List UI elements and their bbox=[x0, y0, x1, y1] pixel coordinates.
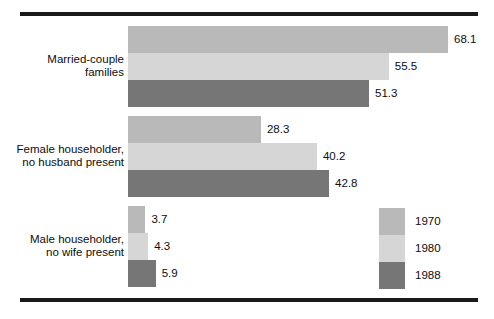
bar-1988-group-1 bbox=[128, 80, 369, 107]
bar-value-label: 4.3 bbox=[154, 233, 170, 260]
legend-swatch-1980 bbox=[379, 235, 405, 262]
category-label-text: Male householder, no wife present bbox=[14, 233, 124, 260]
category-label-2: Female householder, no husband present bbox=[14, 143, 124, 170]
bar-value-label: 51.3 bbox=[375, 80, 397, 107]
bar-value-label: 40.2 bbox=[323, 143, 345, 170]
bar-1980-group-1 bbox=[128, 53, 389, 80]
category-label-1: Married-couple families bbox=[14, 53, 124, 80]
legend-label-text: 1988 bbox=[415, 262, 441, 289]
legend-swatch-1970 bbox=[379, 208, 405, 235]
bar-1970-group-1 bbox=[128, 26, 448, 53]
bar-1988-group-2 bbox=[128, 170, 329, 197]
bar-value-label: 55.5 bbox=[395, 53, 417, 80]
category-label-3: Male householder, no wife present bbox=[14, 233, 124, 260]
bar-value-label: 68.1 bbox=[454, 26, 476, 53]
bar-value-label: 28.3 bbox=[267, 116, 289, 143]
legend-label-text: 1980 bbox=[415, 235, 441, 262]
bar-1980-group-2 bbox=[128, 143, 317, 170]
chart-container: Married-couple families68.155.551.3Femal… bbox=[0, 0, 494, 319]
bar-value-label: 42.8 bbox=[335, 170, 357, 197]
category-label-text: Female householder, no husband present bbox=[14, 143, 124, 170]
legend-swatch-1988 bbox=[379, 262, 405, 289]
bar-value-label: 3.7 bbox=[151, 206, 167, 233]
category-label-text: Married-couple families bbox=[14, 53, 124, 80]
legend-label-text: 1970 bbox=[415, 208, 441, 235]
bar-value-label: 5.9 bbox=[162, 260, 178, 287]
bar-1980-group-3 bbox=[128, 233, 148, 260]
bar-1970-group-3 bbox=[128, 206, 145, 233]
bar-1970-group-2 bbox=[128, 116, 261, 143]
bar-1988-group-3 bbox=[128, 260, 156, 287]
